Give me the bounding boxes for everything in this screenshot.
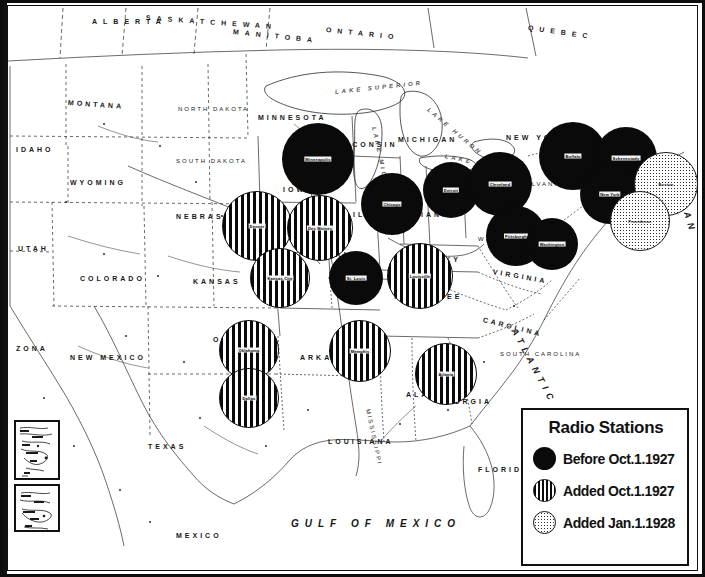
outer-frame-border	[0, 0, 705, 577]
radio-station-map: ALBERTASASKATCHEWANMANITOBAONTARIOQUEBEC…	[0, 0, 705, 577]
